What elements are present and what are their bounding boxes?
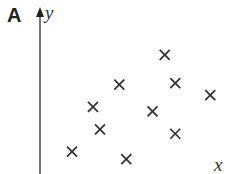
data-point-x-marker-icon xyxy=(205,90,215,100)
data-point-x-marker-icon xyxy=(88,102,98,112)
scatter-plot xyxy=(0,0,234,174)
data-point-x-marker-icon xyxy=(67,147,77,157)
data-point-x-marker-icon xyxy=(121,154,131,164)
data-point-x-marker-icon xyxy=(170,129,180,139)
y-axis-arrow-icon xyxy=(36,7,44,17)
data-point-x-marker-icon xyxy=(170,78,180,88)
y-axis xyxy=(36,7,44,174)
data-markers xyxy=(67,50,215,164)
data-point-x-marker-icon xyxy=(95,124,105,134)
data-point-x-marker-icon xyxy=(148,106,158,116)
data-point-x-marker-icon xyxy=(160,50,170,60)
data-point-x-marker-icon xyxy=(114,80,124,90)
